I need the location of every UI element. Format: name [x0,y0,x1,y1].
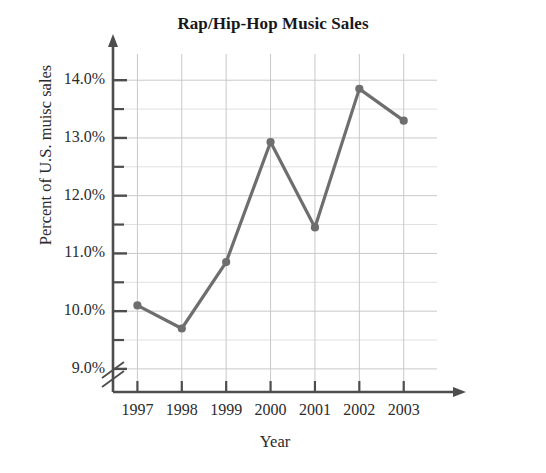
y-minor-ticks [113,109,124,340]
gridlines [113,54,437,392]
x-ticks [137,381,403,392]
data-point-2000 [266,138,274,146]
y-tick-label: 11.0% [64,243,105,261]
y-tick-label: 10.0% [64,301,105,319]
data-point-1999 [222,258,230,266]
y-tick-label: 12.0% [64,186,105,204]
data-point-1997 [133,301,141,309]
axis-lines [108,34,466,397]
chart-figure: Rap/Hip-Hop Music Sales Percent of U.S. … [0,0,546,473]
data-point-1998 [178,324,186,332]
data-point-2003 [400,117,408,125]
y-tick-label: 9.0% [72,359,105,377]
data-point-2001 [311,223,319,231]
y-tick-label: 14.0% [64,70,105,88]
y-tick-label: 13.0% [64,128,105,146]
x-tick-label: 2003 [374,401,434,419]
data-point-2002 [355,85,363,93]
